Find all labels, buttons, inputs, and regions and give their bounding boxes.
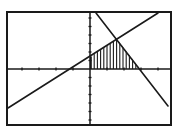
screen-background bbox=[0, 0, 176, 131]
graph-screen bbox=[0, 0, 176, 131]
